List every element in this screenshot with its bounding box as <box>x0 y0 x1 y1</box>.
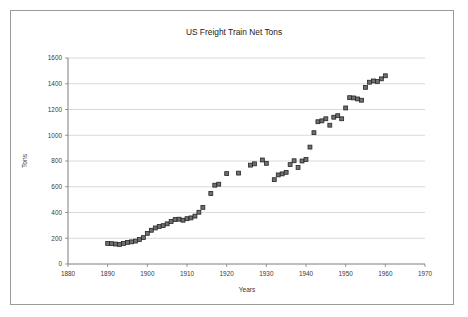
svg-text:1900: 1900 <box>140 270 155 277</box>
gridlines <box>68 58 425 238</box>
svg-text:1930: 1930 <box>259 270 274 277</box>
chart-title: US Freight Train Net Tons <box>186 27 282 37</box>
svg-text:1880: 1880 <box>61 270 76 277</box>
svg-text:1940: 1940 <box>299 270 314 277</box>
svg-text:200: 200 <box>51 235 62 242</box>
svg-text:1000: 1000 <box>48 132 63 139</box>
svg-text:1960: 1960 <box>378 270 393 277</box>
svg-text:0: 0 <box>58 260 62 267</box>
svg-text:1920: 1920 <box>220 270 235 277</box>
x-axis-title: Years <box>239 286 256 293</box>
scatter-chart: US Freight Train Net Tons 02004006008001… <box>0 0 468 317</box>
svg-text:400: 400 <box>51 209 62 216</box>
svg-text:1200: 1200 <box>48 106 63 113</box>
svg-text:1950: 1950 <box>339 270 354 277</box>
y-axis-title: Tons <box>21 153 28 168</box>
y-axis-ticks: 02004006008001000120014001600 <box>48 54 68 267</box>
x-axis-ticks: 1880189019001910192019301940195019601970 <box>61 264 433 277</box>
svg-text:800: 800 <box>51 157 62 164</box>
svg-text:1600: 1600 <box>48 54 63 61</box>
data-markers <box>106 74 388 247</box>
svg-text:600: 600 <box>51 183 62 190</box>
svg-text:1970: 1970 <box>418 270 433 277</box>
svg-text:1910: 1910 <box>180 270 195 277</box>
svg-text:1400: 1400 <box>48 80 63 87</box>
svg-text:1890: 1890 <box>101 270 116 277</box>
